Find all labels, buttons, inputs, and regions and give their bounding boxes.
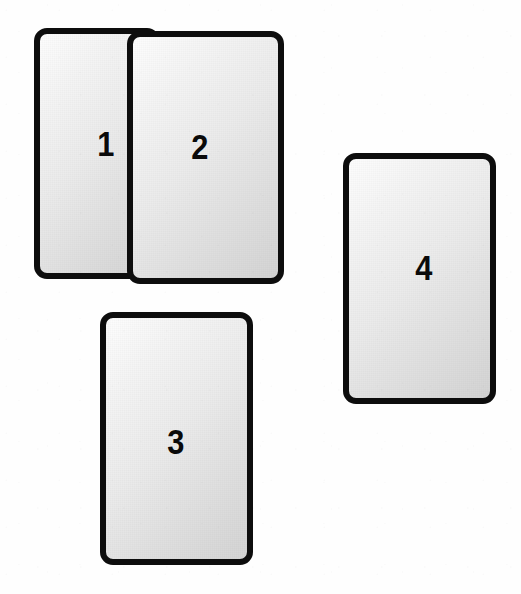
card-1-label: 1 [97, 126, 114, 161]
card-4-label: 4 [415, 250, 432, 285]
diagram-canvas: 1 2 3 4 [0, 0, 521, 594]
card-2-label: 2 [191, 129, 208, 164]
card-3-label: 3 [167, 424, 184, 459]
